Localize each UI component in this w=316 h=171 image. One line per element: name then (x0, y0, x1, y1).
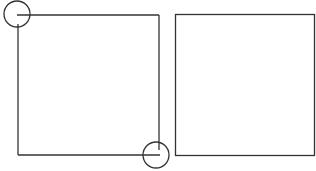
top-left-corner-marker (4, 1, 30, 27)
diagram-canvas (0, 0, 316, 171)
right-square (176, 15, 315, 156)
left-square (4, 1, 169, 168)
